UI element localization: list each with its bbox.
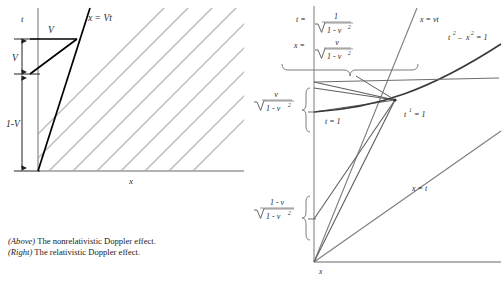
right-diagram-relativistic: t = 1 1 - v 2 x = v 1 - v 2 v 1 - v 2 1 … — [252, 0, 503, 281]
svg-text:v: v — [335, 38, 339, 47]
x-axis-right-label: x — [318, 267, 323, 276]
segment-v-label: V — [48, 25, 55, 35]
left-diagram-nonrelativistic: t x V V 1-V x = Vt — [0, 0, 250, 228]
svg-text:= 1: = 1 — [476, 33, 487, 42]
bracket-one-minus-v-label: 1-V — [6, 119, 21, 129]
tprime-equals-one-label: t 1 = 1 — [404, 107, 425, 119]
svg-text:2: 2 — [453, 30, 456, 36]
svg-text:1 - v: 1 - v — [266, 212, 281, 221]
svg-text:2: 2 — [348, 50, 351, 56]
svg-text:t: t — [448, 33, 451, 42]
bracket-v-label: V — [12, 53, 19, 63]
svg-text:x: x — [465, 33, 470, 42]
worldline-label: x = Vt — [87, 13, 112, 23]
caption-text-right: The relativistic Doppler effect. — [32, 247, 140, 257]
worldline-vt-label: x = vt — [419, 15, 440, 24]
svg-text:–: – — [457, 33, 463, 42]
radical-sign-x — [315, 48, 325, 58]
svg-text:1 - v: 1 - v — [327, 52, 342, 61]
figure-caption: (Above) The nonrelativistic Doppler effe… — [8, 236, 248, 259]
svg-text:2: 2 — [348, 24, 351, 30]
formula-t: t = 1 1 - v 2 — [296, 12, 353, 35]
light-cone-line — [314, 131, 501, 262]
leader-line-formulas — [356, 76, 395, 100]
event-point — [393, 98, 396, 101]
radical-sign-upper — [254, 100, 264, 110]
worldline-vt — [314, 8, 417, 262]
caption-text-above: The nonrelativistic Doppler effect. — [35, 236, 156, 246]
caption-tag-above: (Above) — [8, 236, 35, 246]
svg-text:2: 2 — [471, 30, 474, 36]
svg-text:= 1: = 1 — [414, 110, 425, 119]
hyperbola-curve — [314, 44, 501, 112]
formula-x: x = v 1 - v 2 — [293, 38, 353, 61]
svg-text:1 - v: 1 - v — [327, 26, 342, 35]
radical-sign-lower — [254, 208, 264, 218]
light-cone-label: x = t — [411, 184, 428, 193]
top-connector — [314, 78, 499, 82]
svg-text:v: v — [274, 90, 278, 99]
t-equals-one-label: t = 1 — [325, 117, 341, 126]
svg-text:1: 1 — [409, 107, 412, 113]
underbrace-formulas — [282, 64, 418, 76]
svg-text:1 - v: 1 - v — [270, 198, 285, 207]
t-axis-label: t — [21, 14, 24, 24]
svg-text:t: t — [404, 110, 407, 119]
signal-line-b — [314, 88, 395, 100]
caption-line-above: (Above) The nonrelativistic Doppler effe… — [8, 236, 248, 247]
x-axis-label: x — [128, 176, 133, 186]
svg-text:t =: t = — [296, 15, 306, 24]
svg-text:x =: x = — [293, 41, 305, 50]
svg-text:2: 2 — [288, 102, 291, 108]
svg-text:1 - v: 1 - v — [266, 104, 281, 113]
caption-tag-right: (Right) — [8, 247, 32, 257]
brace-upper — [302, 88, 310, 132]
axis-fraction-lower: 1 - v 1 - v 2 — [254, 198, 294, 221]
svg-text:1: 1 — [334, 12, 338, 21]
svg-text:2: 2 — [288, 210, 291, 216]
hyperbola-label: t 2 – x 2 = 1 — [448, 30, 487, 42]
brace-lower — [302, 196, 310, 240]
axis-fraction-upper: v 1 - v 2 — [254, 90, 294, 113]
caption-line-right: (Right) The relativistic Doppler effect. — [8, 247, 248, 258]
radical-sign-t — [315, 22, 325, 32]
